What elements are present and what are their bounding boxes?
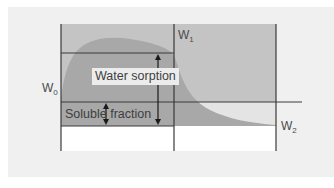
w0-label: W0 xyxy=(42,82,58,94)
water-sorption-label: Water sorption xyxy=(92,68,179,85)
w2-subscript: 2 xyxy=(292,126,296,135)
w2-label: W2 xyxy=(281,120,297,132)
soluble-fraction-label: Soluble fraction xyxy=(65,108,151,121)
w2-main: W xyxy=(281,119,292,133)
w1-subscript: 1 xyxy=(189,35,193,44)
w0-main: W xyxy=(42,81,53,95)
lower-band xyxy=(61,126,276,151)
w0-subscript: 0 xyxy=(53,88,57,97)
w1-label: W1 xyxy=(178,29,194,41)
w1-main: W xyxy=(178,28,189,42)
